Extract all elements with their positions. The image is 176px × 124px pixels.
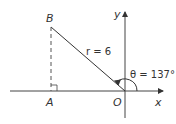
polar-diagram: B A O x y r = 6 θ = 137° (0, 0, 176, 124)
radius-line-ob (51, 27, 125, 91)
angle-label: θ = 137° (130, 69, 175, 80)
point-label-b: B (46, 12, 54, 25)
y-axis-label: y (113, 8, 121, 21)
point-label-o: O (113, 96, 122, 109)
right-angle-marker (51, 85, 57, 91)
x-axis-label: x (154, 96, 162, 109)
radius-label: r = 6 (86, 46, 111, 57)
point-label-a: A (45, 96, 54, 109)
